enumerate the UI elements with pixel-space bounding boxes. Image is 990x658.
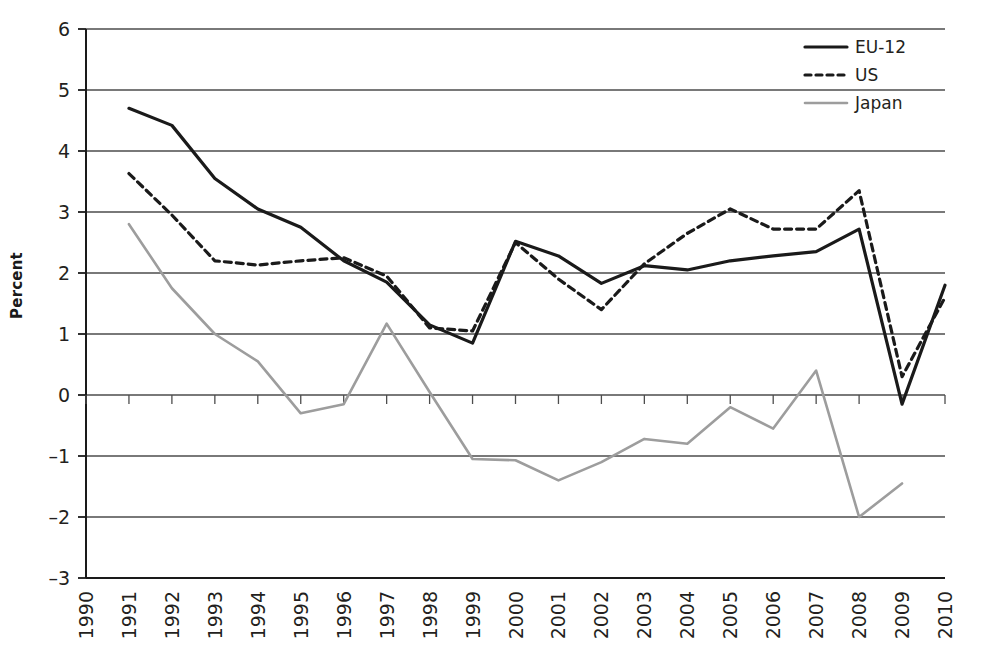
- chart-background: [0, 0, 990, 658]
- x-tick-label: 1990: [75, 591, 97, 639]
- x-axis-tick-labels-group: 1990199119921993199419951996199719981999…: [75, 591, 956, 639]
- x-tick-label: 1995: [290, 591, 312, 639]
- y-tick-label: 0: [58, 384, 70, 406]
- x-tick-label: 2003: [633, 591, 655, 639]
- x-tick-label: 1992: [161, 591, 183, 639]
- y-tick-label: 5: [58, 79, 70, 101]
- legend-label-japan: Japan: [854, 93, 902, 113]
- x-tick-label: 2004: [676, 591, 698, 639]
- x-tick-label: 2002: [590, 591, 612, 639]
- y-tick-label: –2: [48, 506, 70, 528]
- x-tick-label: 1997: [376, 591, 398, 639]
- x-tick-label: 1993: [204, 591, 226, 639]
- legend-label-eu-12: EU-12: [855, 37, 906, 57]
- y-tick-label: 4: [58, 140, 70, 162]
- y-tick-label: 1: [58, 323, 70, 345]
- x-tick-label: 2001: [547, 591, 569, 639]
- y-tick-label: 3: [58, 201, 70, 223]
- y-axis-title: Percent: [8, 252, 26, 319]
- x-tick-label: 2005: [719, 591, 741, 639]
- x-tick-label: 1999: [462, 591, 484, 639]
- x-tick-label: 2008: [848, 591, 870, 639]
- legend-label-us: US: [855, 65, 878, 85]
- x-tick-label: 2007: [805, 591, 827, 639]
- line-chart: 6543210–1–2–3 19901991199219931994199519…: [0, 0, 990, 658]
- chart-container: 6543210–1–2–3 19901991199219931994199519…: [0, 0, 990, 658]
- y-tick-label: 2: [58, 262, 70, 284]
- y-axis-title-group: Percent: [8, 252, 26, 319]
- x-tick-label: 1998: [419, 591, 441, 639]
- x-tick-label: 2006: [762, 591, 784, 639]
- x-tick-label: 2009: [891, 591, 913, 639]
- x-tick-label: 2010: [934, 591, 956, 639]
- x-axis-ticks-group: [86, 395, 945, 404]
- x-tick-label: 1996: [333, 591, 355, 639]
- x-tick-label: 1991: [118, 591, 140, 639]
- x-tick-label: 1994: [247, 591, 269, 639]
- y-tick-label: –3: [48, 567, 70, 589]
- y-tick-label: 6: [58, 18, 70, 40]
- x-tick-label: 2000: [505, 591, 527, 639]
- y-tick-label: –1: [48, 445, 70, 467]
